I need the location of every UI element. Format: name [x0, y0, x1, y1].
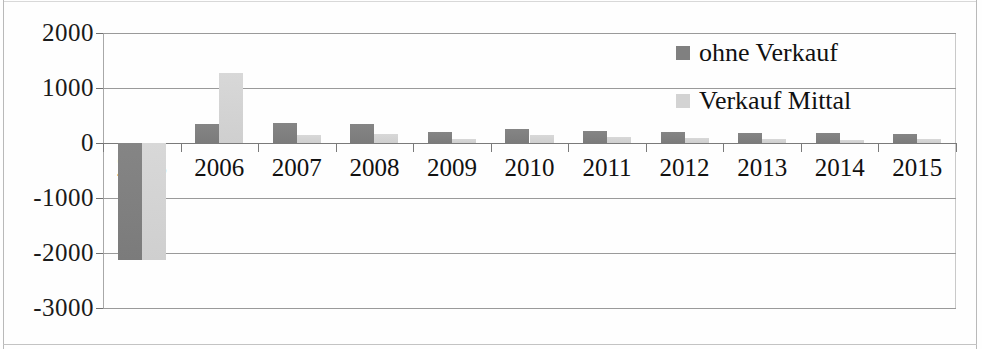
bar-2015-series-1 [893, 134, 917, 143]
bar-2011-series-2 [607, 137, 631, 143]
frame-border-right [976, 0, 977, 349]
bar-2014-series-1 [816, 133, 840, 143]
x-axis-label-2007: 2007 [258, 155, 336, 180]
bar-2015-series-2 [917, 139, 941, 143]
x-axis-tick [568, 143, 569, 152]
x-axis-tick [491, 143, 492, 152]
bar-2013-series-2 [762, 139, 786, 143]
x-axis-label-2008: 2008 [336, 155, 414, 180]
bar-2010-series-1 [505, 129, 529, 143]
bar-2011-series-1 [583, 131, 607, 143]
bar-2009-series-1 [428, 132, 452, 143]
x-axis-label-2010: 2010 [491, 155, 569, 180]
chart-legend: ohne Verkauf Verkauf Mittal [676, 36, 906, 132]
legend-label-series-2: Verkauf Mittal [699, 88, 851, 114]
y-axis-label: 0 [81, 130, 94, 155]
bar-2014-series-2 [840, 140, 864, 143]
x-axis-tick [878, 143, 879, 152]
gridline [103, 253, 956, 254]
frame-border-top [3, 1, 977, 2]
x-axis-tick [723, 143, 724, 152]
x-axis-label-2011: 2011 [568, 155, 646, 180]
bar-2012-series-2 [685, 138, 709, 143]
bar-2009-series-2 [452, 139, 476, 143]
bar-2005-series-2 [142, 143, 166, 260]
bar-2007-series-2 [297, 135, 321, 143]
legend-item-verkauf-mittal[interactable]: Verkauf Mittal [676, 84, 906, 118]
x-axis-tick [258, 143, 259, 152]
frame-border-bottom [3, 344, 977, 345]
y-axis-label: 2000 [42, 20, 94, 45]
legend-swatch-icon-dark [676, 46, 690, 60]
x-axis-label-2009: 2009 [413, 155, 491, 180]
x-axis-label-2015: 2015 [878, 155, 956, 180]
y-axis-label: 1000 [42, 75, 94, 100]
bar-2010-series-2 [530, 135, 554, 143]
x-axis-tick [413, 143, 414, 152]
bar-2007-series-1 [273, 123, 297, 143]
x-axis-tick [956, 143, 957, 152]
x-axis-tick [336, 143, 337, 152]
bar-chart: 200010000-1000-2000-3000 200520062007200… [0, 0, 982, 349]
y-axis-label: -2000 [33, 240, 94, 265]
bar-2008-series-1 [350, 124, 374, 143]
gridline [103, 308, 956, 309]
x-axis-tick [181, 143, 182, 152]
x-axis-tick [103, 143, 104, 152]
x-axis-label-2014: 2014 [801, 155, 879, 180]
gridline [103, 198, 956, 199]
bar-2006-series-1 [195, 124, 219, 143]
bar-2013-series-1 [738, 133, 762, 143]
x-axis-label-2006: 2006 [181, 155, 259, 180]
legend-item-ohne-verkauf[interactable]: ohne Verkauf [676, 36, 906, 70]
y-axis-label: -1000 [33, 185, 94, 210]
x-axis-tick [801, 143, 802, 152]
y-axis-label: -3000 [33, 295, 94, 320]
x-axis-tick [646, 143, 647, 152]
legend-label-series-1: ohne Verkauf [699, 40, 838, 66]
bar-2005-series-1 [118, 143, 142, 260]
bar-2006-series-2 [219, 73, 243, 143]
legend-swatch-icon-light [676, 94, 690, 108]
gridline [103, 33, 956, 34]
frame-border-left [3, 0, 4, 349]
bar-2012-series-1 [661, 132, 685, 143]
bar-2008-series-2 [374, 134, 398, 143]
gridline [103, 143, 956, 144]
x-axis-label-2012: 2012 [646, 155, 724, 180]
x-axis-label-2013: 2013 [723, 155, 801, 180]
